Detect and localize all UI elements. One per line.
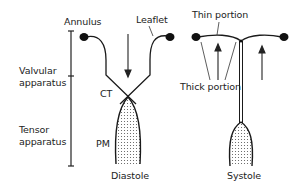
label-tensor-line1: Tensor: [19, 124, 49, 135]
annulus-right-diastole: [166, 33, 175, 41]
right-leaflet-systole: [241, 35, 282, 41]
leaflet-pointer: [149, 26, 153, 36]
annulus-right-systole: [280, 33, 289, 41]
thin-portion-pointer: [217, 22, 219, 35]
annulus-left-diastole: [80, 33, 89, 41]
diagram-canvas: [0, 0, 304, 188]
thick-portion-pointer-left: [201, 42, 210, 80]
label-thick-portion: Thick portion: [180, 81, 241, 92]
arrow-up-icon-right: [259, 46, 265, 80]
label-thin-portion: Thin portion: [192, 9, 248, 20]
arrow-up-icon-left: [215, 44, 221, 80]
annulus-left-systole: [192, 33, 201, 41]
thick-portion-pointer-right: [225, 42, 236, 80]
label-diastole: Diastole: [111, 170, 149, 181]
label-valvular-line2: apparatus: [19, 77, 66, 88]
arrow-down-icon: [125, 34, 131, 77]
label-leaflet: Leaflet: [136, 14, 168, 25]
label-ct: CT: [100, 88, 112, 99]
systole-valve: [192, 22, 289, 166]
papillary-muscle-diastole: [116, 97, 141, 164]
mitral-valve-diagram: Annulus Leaflet Thin portion Valvular ap…: [0, 0, 304, 188]
papillary-muscle-systole: [229, 122, 252, 166]
scale-bar: [68, 31, 74, 166]
label-valvular-line1: Valvular: [19, 65, 56, 76]
left-leaflet-systole: [198, 35, 241, 41]
label-annulus: Annulus: [64, 16, 101, 27]
diastole-valve: [80, 26, 175, 164]
label-pm: PM: [96, 138, 110, 149]
label-systole: Systole: [227, 170, 261, 181]
label-tensor-line2: apparatus: [19, 136, 66, 147]
